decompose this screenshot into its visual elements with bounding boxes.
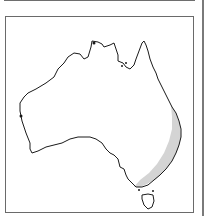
top-panel-frame	[4, 0, 195, 1]
map-frame	[5, 16, 194, 213]
island-dot	[138, 189, 140, 191]
island-dot	[125, 62, 127, 64]
tasmania-outline	[142, 194, 154, 209]
australia-map	[6, 17, 193, 212]
right-edge-divider	[202, 0, 204, 216]
island-dot	[93, 42, 96, 45]
island-dot	[152, 190, 154, 192]
island-dot	[121, 65, 123, 67]
island-dot	[20, 115, 23, 118]
range-shading	[134, 105, 181, 187]
